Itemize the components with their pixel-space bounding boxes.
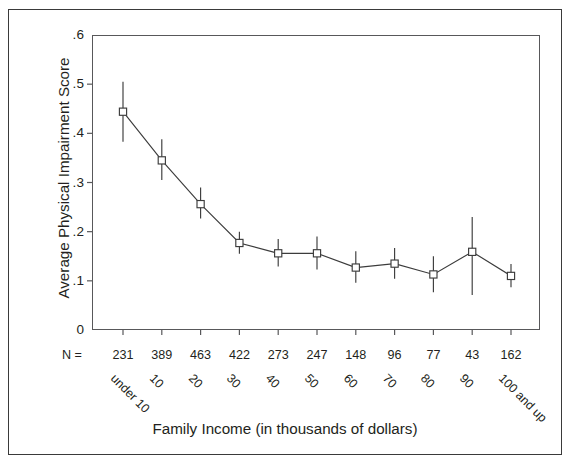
- chart-figure: Average Physical Impairment Score 0.1.2.…: [0, 0, 570, 464]
- chart-plot-layer: [0, 0, 570, 464]
- axis-ticks: [87, 84, 511, 335]
- data-series: [119, 82, 514, 295]
